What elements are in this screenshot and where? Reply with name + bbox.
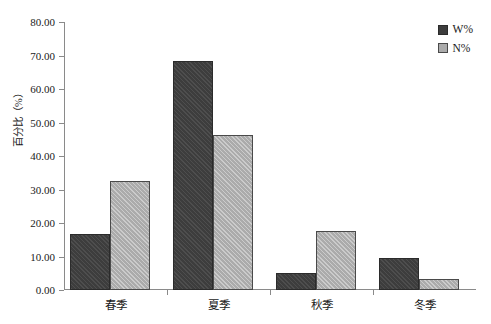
- legend-item-w: W%: [438, 24, 473, 36]
- bar-chart: 百分比（%） 0.0010.0020.0030.0040.0050.0060.0…: [0, 0, 491, 324]
- bar-n: [213, 135, 253, 290]
- y-axis-tick-label: 20.00: [30, 218, 55, 229]
- x-axis-separator: [167, 290, 168, 295]
- bar-group: [373, 22, 476, 290]
- legend: W% N%: [438, 24, 473, 61]
- legend-swatch-w-icon: [438, 25, 448, 35]
- bar-n: [419, 279, 459, 290]
- y-axis-tick-label: 30.00: [30, 184, 55, 195]
- y-axis-tick: [59, 290, 64, 291]
- bar-group: [64, 22, 167, 290]
- y-axis-tick-label: 0.00: [36, 285, 55, 296]
- legend-label-n: N%: [453, 43, 471, 55]
- y-axis-tick-label: 60.00: [30, 84, 55, 95]
- x-axis-category-label: 春季: [64, 296, 167, 312]
- y-axis-tick-label: 80.00: [30, 17, 55, 28]
- y-axis-tick-label: 50.00: [30, 117, 55, 128]
- bar-w: [173, 61, 213, 290]
- x-axis-category-label: 冬季: [373, 296, 476, 312]
- x-axis-separator: [373, 290, 374, 295]
- bar-n: [110, 181, 150, 290]
- legend-label-w: W%: [453, 24, 473, 36]
- y-axis-tick-label: 10.00: [30, 251, 55, 262]
- legend-swatch-n-icon: [438, 43, 448, 53]
- plot-area: 0.0010.0020.0030.0040.0050.0060.0070.008…: [64, 22, 476, 290]
- y-axis-title: 百分比（%）: [10, 63, 25, 173]
- bar-w: [379, 258, 419, 290]
- bar-w: [70, 234, 110, 290]
- bar-group: [270, 22, 373, 290]
- x-axis-category-label: 夏季: [167, 296, 270, 312]
- legend-item-n: N%: [438, 43, 473, 55]
- bar-n: [316, 231, 356, 290]
- x-axis-category-label: 秋季: [270, 296, 373, 312]
- bar-w: [276, 273, 316, 290]
- y-axis-tick-label: 40.00: [30, 151, 55, 162]
- bar-group: [167, 22, 270, 290]
- x-axis-separator: [270, 290, 271, 295]
- y-axis-tick-label: 70.00: [30, 50, 55, 61]
